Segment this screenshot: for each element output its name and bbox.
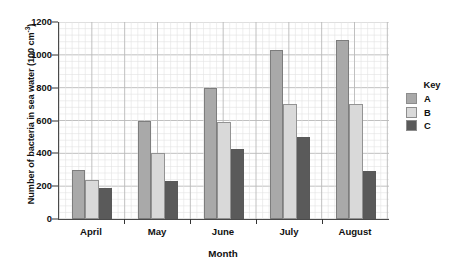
- x-tick-mark: [124, 219, 125, 224]
- bar-april-b: [85, 180, 98, 219]
- x-tick-mark: [190, 219, 191, 224]
- bar-august-b: [349, 104, 362, 219]
- y-tick-label: 1000: [18, 50, 52, 59]
- bar-june-b: [217, 122, 230, 219]
- legend-rows: ABC: [406, 93, 454, 131]
- bar-chart: Number of bacteria in sea water (100 cm-…: [0, 0, 457, 272]
- y-tick-label: 800: [18, 83, 52, 92]
- x-tick-mark: [322, 219, 323, 224]
- y-tick-label: 200: [18, 181, 52, 190]
- bar-may-c: [165, 181, 178, 219]
- y-tick-label: 600: [18, 116, 52, 125]
- x-tick-mark: [256, 219, 257, 224]
- bar-april-a: [72, 170, 85, 219]
- legend-title: Key: [410, 79, 454, 90]
- y-axis-ticks: 020040060080010001200: [18, 22, 52, 219]
- plot-area: [58, 22, 389, 220]
- bar-may-a: [138, 121, 151, 220]
- x-axis-title: Month: [58, 248, 388, 259]
- y-tick-label: 400: [18, 149, 52, 158]
- legend-label-b: B: [424, 107, 431, 118]
- y-tick-label: 0: [18, 214, 52, 223]
- bar-may-b: [151, 153, 164, 219]
- bars-layer: [59, 22, 389, 219]
- legend-swatch-b: [406, 107, 417, 118]
- bar-july-a: [270, 50, 283, 219]
- y-tick-label: 1200: [18, 17, 52, 26]
- legend-item-a: A: [406, 93, 454, 104]
- bar-june-c: [231, 149, 244, 219]
- legend-swatch-c: [406, 120, 417, 131]
- bar-august-a: [336, 40, 349, 219]
- bar-august-c: [363, 171, 376, 219]
- legend-item-b: B: [406, 107, 454, 118]
- bar-july-c: [297, 137, 310, 219]
- bar-july-b: [283, 104, 296, 219]
- x-tick-label-august: August: [315, 226, 395, 237]
- bar-april-c: [99, 188, 112, 219]
- x-axis-ticks: AprilMayJuneJulyAugust: [58, 219, 388, 249]
- legend-label-c: C: [424, 120, 431, 131]
- legend-item-c: C: [406, 120, 454, 131]
- legend-swatch-a: [406, 93, 417, 104]
- legend-label-a: A: [424, 93, 431, 104]
- legend: Key ABC: [406, 79, 454, 134]
- bar-june-a: [204, 88, 217, 219]
